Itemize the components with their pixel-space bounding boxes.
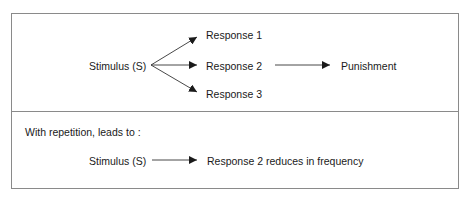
arrow-stimulus-to-response-3	[151, 65, 197, 92]
arrow-stimulus-to-response-1	[151, 37, 197, 65]
arrows-layer	[0, 0, 471, 197]
